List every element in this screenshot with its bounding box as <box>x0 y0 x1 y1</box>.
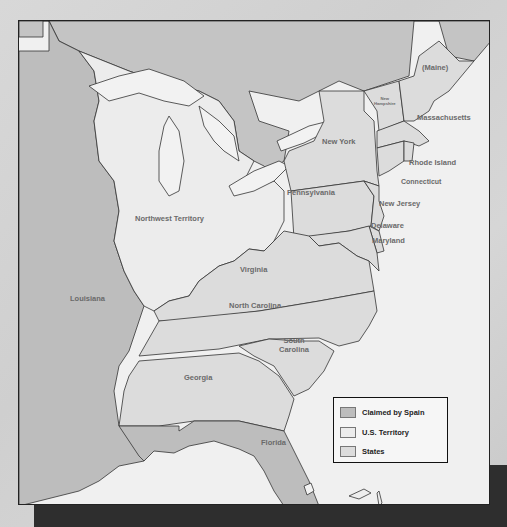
label-new-jersey: New Jersey <box>379 199 420 208</box>
label-northwest-territory: Northwest Territory <box>135 214 204 223</box>
legend-item-states: States <box>340 446 385 457</box>
legend-item-us-territory: U.S. Territory <box>340 427 409 438</box>
background-dark-band-right <box>490 465 507 527</box>
label-north-carolina: North Carolina <box>229 301 281 310</box>
label-delaware: Delaware <box>371 221 404 230</box>
map-legend: Claimed by Spain U.S. Territory States <box>333 397 448 463</box>
label-new-york: New York <box>322 137 356 146</box>
label-south-carolina-line1: South <box>283 336 304 345</box>
legend-item-claimed-by-spain: Claimed by Spain <box>340 407 425 418</box>
label-pennsylvania: Pennsylvania <box>287 188 335 197</box>
map-frame: (Maine) New Hampshire Massachusetts New … <box>18 20 490 505</box>
legend-label-us-territory: U.S. Territory <box>362 428 409 437</box>
label-south-carolina-line2: Carolina <box>279 345 309 354</box>
label-maine: (Maine) <box>422 63 448 72</box>
label-new-hampshire-line2: Hampshire <box>374 101 396 106</box>
label-massachusetts: Massachusetts <box>417 113 471 122</box>
label-connecticut: Connecticut <box>401 178 441 185</box>
legend-swatch-spain <box>340 407 356 418</box>
label-georgia: Georgia <box>184 373 212 382</box>
label-maryland: Maryland <box>372 236 405 245</box>
label-new-hampshire: New Hampshire <box>374 96 396 106</box>
label-rhode-island: Rhode Island <box>409 158 456 167</box>
label-south-carolina: South Carolina <box>279 336 309 354</box>
legend-label-states: States <box>362 447 385 456</box>
label-virginia: Virginia <box>240 265 267 274</box>
legend-swatch-states <box>340 446 356 457</box>
label-florida: Florida <box>261 438 286 447</box>
legend-label-spain: Claimed by Spain <box>362 408 425 417</box>
legend-swatch-us-territory <box>340 427 356 438</box>
label-louisiana: Louisiana <box>70 294 105 303</box>
